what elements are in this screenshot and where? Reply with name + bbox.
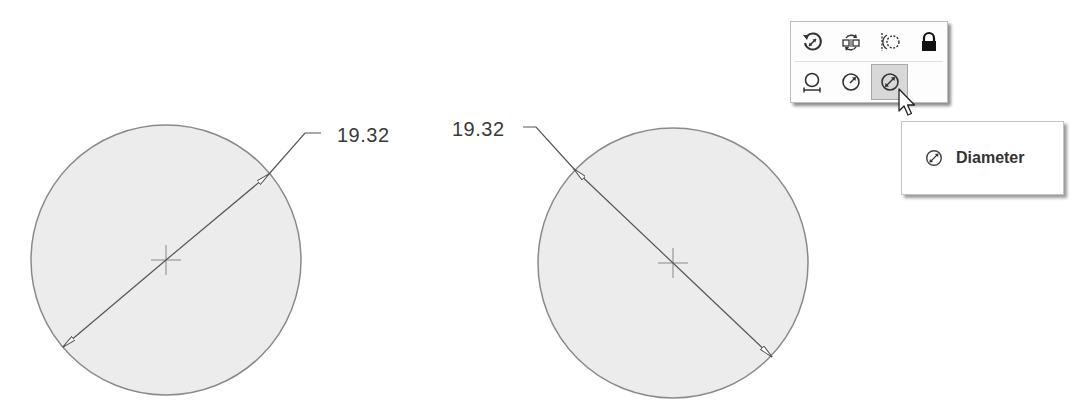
dimension-palette	[790, 21, 948, 103]
dimension-value-right[interactable]: 19.32	[452, 118, 505, 141]
arc-extension-button[interactable]	[871, 24, 908, 60]
swap-sides-icon	[840, 31, 862, 53]
lock-button[interactable]	[910, 24, 947, 60]
rotate-dimension-icon	[801, 31, 823, 53]
mouse-cursor-icon	[897, 88, 919, 118]
tooltip-diameter: Diameter	[901, 121, 1064, 195]
linear-circle-icon	[801, 71, 823, 93]
concentric-arc-icon	[879, 31, 901, 53]
lock-icon	[918, 31, 940, 53]
palette-row-1	[791, 24, 947, 62]
dimension-value-left[interactable]: 19.32	[337, 124, 390, 147]
palette-separator	[795, 61, 943, 62]
palette-row-2	[791, 64, 947, 102]
swap-sides-button[interactable]	[832, 24, 869, 60]
tooltip-label: Diameter	[956, 149, 1024, 167]
linear-dimension-button[interactable]	[793, 64, 830, 100]
radius-icon	[840, 71, 862, 93]
rotate-dimension-button[interactable]	[793, 24, 830, 60]
radius-dimension-button[interactable]	[832, 64, 869, 100]
diameter-icon	[924, 148, 944, 168]
